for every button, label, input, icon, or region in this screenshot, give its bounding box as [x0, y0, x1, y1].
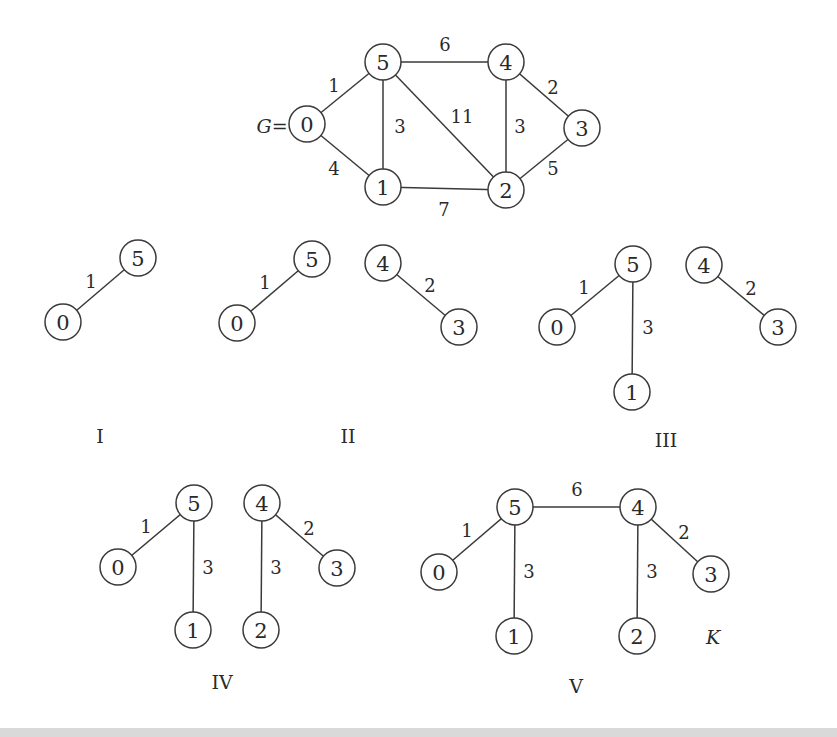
step-caption: IV — [211, 671, 233, 693]
edge-weight-label: 4 — [328, 158, 339, 179]
edge-weight-label: 2 — [745, 278, 756, 299]
graphs-layer: 1436113275054321105I120543II13205143III1… — [45, 34, 796, 698]
edge-weight-label: 6 — [571, 479, 582, 500]
step-caption: V — [568, 675, 583, 697]
node-label: 1 — [186, 619, 199, 643]
node-label: 5 — [131, 247, 144, 271]
node-label: 2 — [254, 619, 267, 643]
edge-weight-label: 2 — [678, 522, 689, 543]
edge-weight-label: 1 — [328, 75, 339, 96]
graph-iv: 1332051423IV — [100, 485, 355, 693]
edge-weight-label: 3 — [523, 561, 534, 582]
edge-5-1 — [632, 264, 633, 392]
edge-weight-label: 2 — [303, 518, 314, 539]
edge-weight-label: 5 — [547, 158, 558, 179]
node-label: 0 — [300, 113, 313, 137]
node-label: 0 — [550, 316, 563, 340]
result-tree-k-label: K — [705, 626, 722, 648]
edge-weight-label: 2 — [547, 77, 558, 98]
step-caption: I — [96, 425, 104, 447]
node-label: 2 — [499, 179, 512, 203]
edge-weight-label: 7 — [438, 199, 449, 220]
edge-weight-label: 3 — [642, 317, 653, 338]
node-label: 0 — [432, 561, 445, 585]
edge-weight-label: 1 — [85, 271, 96, 292]
node-label: 4 — [376, 252, 389, 276]
graph-v: 13632051423V — [421, 479, 729, 698]
node-label: 3 — [452, 316, 465, 340]
step-caption: II — [340, 425, 355, 447]
graph-i: 105I — [45, 240, 156, 447]
node-label: 5 — [305, 248, 318, 272]
edge-weight-label: 1 — [461, 520, 472, 541]
node-label: 5 — [376, 51, 389, 75]
edge-weight-label: 3 — [394, 116, 405, 137]
edge-5-1 — [193, 503, 194, 630]
step-caption: III — [655, 429, 678, 451]
edge-weight-label: 6 — [439, 34, 450, 55]
kruskal-mst-diagram: 1436113275054321105I120543II13205143III1… — [0, 0, 837, 737]
edge-weight-label: 1 — [578, 277, 589, 298]
edge-weight-label: 11 — [451, 106, 474, 127]
node-label: 3 — [330, 557, 343, 581]
node-label: 3 — [771, 316, 784, 340]
node-label: 4 — [631, 496, 644, 520]
edge-weight-label: 1 — [259, 272, 270, 293]
node-label: 0 — [111, 556, 124, 580]
edge-5-1 — [514, 507, 515, 636]
edge-weight-label: 3 — [514, 116, 525, 137]
node-label: 4 — [255, 492, 268, 516]
node-label: 1 — [625, 381, 638, 405]
node-label: 1 — [376, 176, 389, 200]
graph-iii: 13205143III — [539, 246, 796, 451]
graph-ii: 120543II — [219, 241, 477, 447]
node-label: 4 — [697, 254, 710, 278]
page-bottom-edge — [0, 728, 837, 737]
node-label: 5 — [626, 253, 639, 277]
node-label: 0 — [56, 311, 69, 335]
graph-g-letter: G — [256, 115, 271, 137]
node-label: 2 — [630, 625, 643, 649]
node-label: 1 — [507, 625, 520, 649]
graph-g: 1436113275054321 — [289, 34, 600, 220]
edge-4-2 — [637, 507, 638, 636]
edge-weight-label: 3 — [202, 557, 213, 578]
edge-weight-label: 1 — [140, 516, 151, 537]
node-label: 3 — [704, 563, 717, 587]
edge-4-2 — [261, 503, 262, 630]
node-label: 5 — [187, 492, 200, 516]
equals-sign: = — [272, 115, 288, 137]
edge-weight-label: 2 — [424, 275, 435, 296]
node-label: 0 — [230, 312, 243, 336]
graph-g-label: G= — [256, 115, 287, 137]
edge-weight-label: 3 — [646, 561, 657, 582]
node-label: 4 — [499, 51, 512, 75]
edge-weight-label: 3 — [270, 557, 281, 578]
node-label: 3 — [575, 117, 588, 141]
node-label: 5 — [508, 496, 521, 520]
